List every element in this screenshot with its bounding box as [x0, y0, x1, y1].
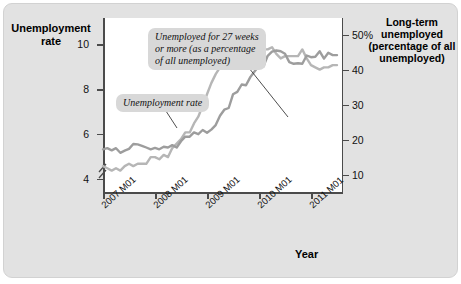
callout-leader-long-term [245, 63, 288, 117]
y-axis-right-title: Long-term unemployed (percentage of all … [366, 16, 458, 64]
annotation-long-term-unemployed: Unemployed for 27 weeks or more (as a pe… [148, 28, 266, 70]
x-axis-title: Year [295, 248, 318, 260]
y-axis-left-title: Unemployment rate [6, 22, 96, 47]
figure-container: 46810 1020304050% 2007 M012008 M012009 M… [0, 0, 461, 284]
annotation-unemployment-rate: Unemployment rate [116, 94, 209, 112]
